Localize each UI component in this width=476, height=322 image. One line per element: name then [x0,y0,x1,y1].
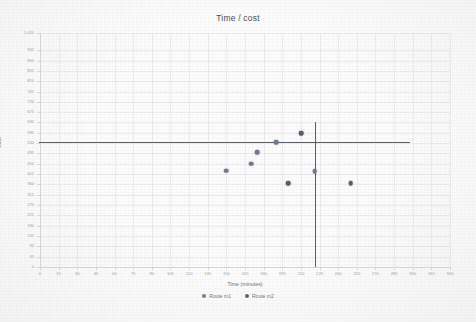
y-tick-mark [37,205,40,206]
y-tick-mark [37,195,40,196]
gridline-vertical [170,33,171,267]
x-tick-mark [245,267,246,270]
y-tick-mark [37,174,40,175]
x-tick-mark [115,267,116,270]
gridline-vertical [96,33,97,267]
x-tick-mark [375,267,376,270]
y-tick-label: 315 [0,193,34,197]
data-point[interactable] [312,169,317,174]
data-point[interactable] [299,131,304,136]
x-tick-mark [320,267,321,270]
y-tick-mark [37,102,40,103]
x-tick-label: 270 [372,272,379,276]
y-axis-line [40,33,41,267]
chart-legend: Route m1Route m2 [0,293,476,299]
x-tick-mark [264,267,265,270]
y-tick-mark [37,50,40,51]
y-tick-label: 360 [0,182,34,186]
y-tick-label: 1,020 [0,31,34,35]
plot-area [40,33,450,267]
x-tick-mark [431,267,432,270]
x-tick-label: 330 [447,272,454,276]
y-tick-label: 270 [0,203,34,207]
gridline-vertical [152,33,153,267]
legend-label: Route m2 [252,293,274,299]
x-tick-label: 15 [56,272,61,276]
gridline-vertical [245,33,246,267]
x-tick-mark [77,267,78,270]
gridline-vertical [413,33,414,267]
x-tick-mark [282,267,283,270]
x-tick-label: 0 [39,272,41,276]
gridline-vertical [115,33,116,267]
legend-item-2[interactable]: Route m2 [245,293,274,299]
gridline-vertical [357,33,358,267]
legend-marker-icon [202,294,206,298]
x-tick-mark [40,267,41,270]
y-tick-label: 585 [0,131,34,135]
gridline-vertical [133,33,134,267]
y-tick-label: 0 [0,265,34,269]
x-axis-title: Time (minutes) [40,281,450,287]
y-tick-mark [37,236,40,237]
y-tick-mark [37,215,40,216]
legend-marker-icon [245,294,249,298]
gridline-vertical [226,33,227,267]
x-tick-label: 75 [131,272,136,276]
gridline-vertical [338,33,339,267]
y-tick-label: 135 [0,234,34,238]
y-tick-label: 45 [0,255,34,259]
legend-label: Route m1 [209,293,231,299]
y-tick-label: 855 [0,69,34,73]
data-point[interactable] [286,181,291,186]
x-tick-mark [170,267,171,270]
legend-item-1[interactable]: Route m1 [202,293,231,299]
reference-line-vertical [315,122,316,267]
y-tick-label: 765 [0,90,34,94]
data-point[interactable] [224,168,229,173]
x-tick-label: 105 [167,272,174,276]
gridline-vertical [282,33,283,267]
gridline-vertical [301,33,302,267]
data-point[interactable] [274,140,279,145]
y-axis-title: Cost [0,137,2,148]
y-tick-mark [37,71,40,72]
x-tick-mark [450,267,451,270]
x-tick-label: 150 [223,272,230,276]
data-point[interactable] [249,161,254,166]
x-tick-label: 120 [186,272,193,276]
chart-title: Time / cost [0,13,476,23]
x-tick-label: 210 [297,272,304,276]
x-tick-mark [301,267,302,270]
x-tick-mark [226,267,227,270]
gridline-vertical [77,33,78,267]
y-tick-mark [37,112,40,113]
x-tick-label: 165 [242,272,249,276]
data-point[interactable] [348,181,353,186]
gridline-vertical [394,33,395,267]
x-tick-mark [133,267,134,270]
data-point[interactable] [255,150,260,155]
y-tick-mark [37,81,40,82]
x-tick-mark [189,267,190,270]
x-tick-label: 285 [391,272,398,276]
y-tick-mark [37,61,40,62]
y-tick-label: 180 [0,224,34,228]
y-tick-mark [37,133,40,134]
y-tick-label: 630 [0,120,34,124]
y-tick-label: 405 [0,172,34,176]
gridline-vertical [431,33,432,267]
x-tick-mark [152,267,153,270]
y-tick-label: 90 [0,244,34,248]
gridline-vertical [320,33,321,267]
y-tick-label: 540 [0,141,34,145]
gridline-vertical [189,33,190,267]
x-tick-label: 135 [204,272,211,276]
y-tick-label: 900 [0,59,34,63]
y-tick-mark [37,92,40,93]
x-tick-label: 180 [260,272,267,276]
y-tick-label: 720 [0,100,34,104]
y-tick-mark [37,122,40,123]
gridline-vertical [264,33,265,267]
y-tick-label: 675 [0,110,34,114]
